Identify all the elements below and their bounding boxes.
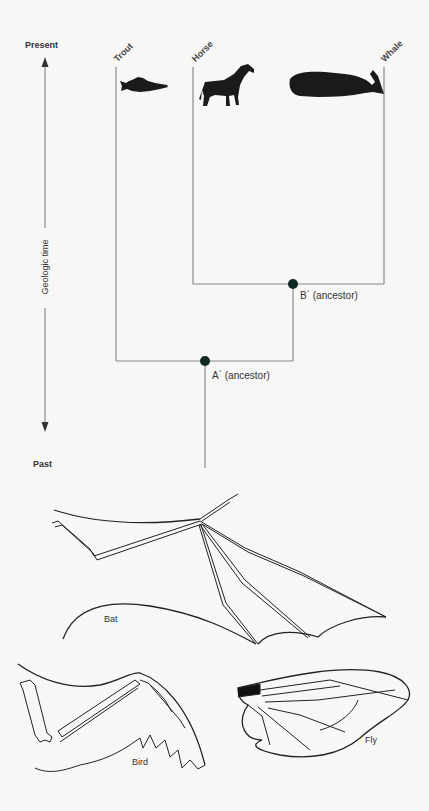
whale-silhouette-icon (289, 70, 384, 97)
fly-label: Fly (365, 735, 377, 745)
arrow-up-icon (42, 57, 49, 67)
bird-label: Bird (132, 757, 148, 767)
ancestor-label-b: B´ (ancestor) (300, 290, 358, 301)
bat-label: Bat (104, 614, 118, 624)
ancestor-label-a: A´ (ancestor) (212, 370, 270, 381)
fish-silhouette-icon (120, 77, 168, 92)
fly-wing-drawing (238, 670, 409, 757)
phylogenetic-tree (116, 67, 384, 468)
ancestor-node-b (288, 279, 298, 289)
present-label: Present (25, 40, 58, 50)
bat-wing-drawing (52, 494, 386, 644)
past-label: Past (33, 459, 52, 469)
horse-silhouette-icon (199, 64, 254, 106)
diagram-canvas (0, 0, 429, 811)
arrow-down-icon (42, 422, 49, 432)
ancestor-node-a (200, 356, 210, 366)
bird-wing-drawing (18, 664, 205, 771)
geologic-time-label: Geologic time (40, 232, 50, 302)
